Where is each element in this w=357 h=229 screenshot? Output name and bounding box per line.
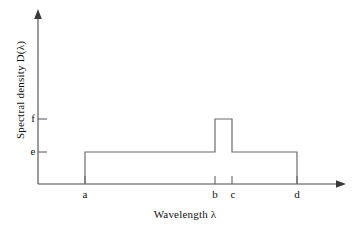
x-tick-label-c: c [226, 188, 240, 200]
y-tick-label-e: e [26, 145, 40, 157]
x-axis-arrow-icon [336, 180, 346, 188]
x-tick-label-a: a [78, 188, 92, 200]
x-tick-label-d: d [290, 188, 304, 200]
chart-figure: Spectral density D(λ) Wavelength λ f e a… [0, 0, 357, 229]
y-tick-label-f: f [26, 112, 40, 124]
x-tick-label-b: b [208, 188, 222, 200]
x-axis-title: Wavelength λ [120, 208, 250, 220]
spectral-density-curve [85, 119, 297, 184]
y-axis-arrow-icon [34, 9, 42, 19]
